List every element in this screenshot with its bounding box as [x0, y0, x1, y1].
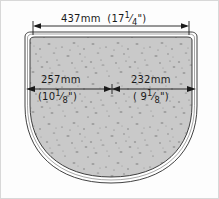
dimension-drawing-canvas: 437mm (171⁄4") 257mm (101⁄8") 232mm ( 91… [0, 0, 219, 199]
arrowhead-top-right-icon [181, 23, 189, 28]
right-segment-imperial-label: ( 91⁄8") [133, 88, 169, 105]
left-segment-metric-label: 257mm [41, 74, 81, 85]
right-segment-imperial-close: ") [160, 91, 169, 102]
overall-width-imperial-close: ") [137, 13, 146, 24]
left-segment-imperial-label: (101⁄8") [38, 88, 77, 105]
left-segment-metric: 257mm [41, 74, 81, 85]
right-segment-imperial-whole: ( 9 [133, 91, 147, 102]
right-segment-fraction-numerator: 1 [147, 88, 153, 98]
left-segment-imperial-close: ") [68, 91, 77, 102]
left-segment-fraction-numerator: 1 [55, 88, 61, 98]
overall-width-fraction-denominator: 4 [132, 17, 138, 27]
right-segment-metric-label: 232mm [131, 74, 171, 85]
overall-width-fraction: 1⁄4 [125, 10, 138, 27]
right-segment-fraction: 1⁄8 [147, 88, 160, 105]
overall-width-label: 437mm (171⁄4") [61, 10, 146, 27]
technical-drawing-svg [1, 1, 219, 199]
arrowhead-top-left-icon [33, 23, 41, 28]
overall-width-fraction-numerator: 1 [125, 10, 131, 20]
overall-width-metric: 437mm [61, 13, 101, 24]
left-segment-fraction-denominator: 8 [63, 95, 69, 105]
right-segment-fraction-denominator: 8 [154, 95, 160, 105]
overall-width-imperial-whole: (17 [107, 13, 124, 24]
right-segment-metric: 232mm [131, 74, 171, 85]
left-segment-fraction: 1⁄8 [55, 88, 68, 105]
left-segment-imperial-whole: (10 [38, 91, 55, 102]
